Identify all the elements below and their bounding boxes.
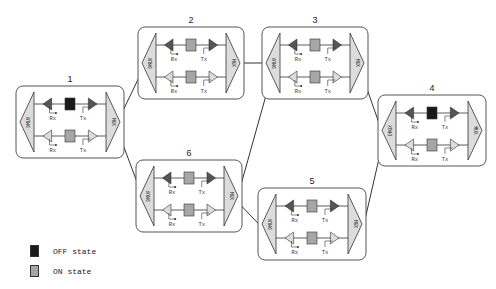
switch-bottom-on <box>427 139 437 151</box>
rx-label: Rx <box>171 88 178 95</box>
rx-port-dot <box>417 153 419 155</box>
rx-port-dot <box>174 186 176 188</box>
node-label: 3 <box>312 15 317 25</box>
legend-item-off: OFF state <box>30 241 96 261</box>
demux-label: DMUX <box>148 57 153 68</box>
demux-label: DMUX <box>146 190 151 201</box>
nodes: 1DMUXMUXRxTxRxTx2DMUXMUXRxTxRxTx3DMUXMUX… <box>16 15 486 260</box>
node-label: 2 <box>188 15 193 25</box>
demux-label: DMUX <box>26 116 31 127</box>
switch-top-off <box>65 98 75 110</box>
tx-label: Tx <box>198 189 205 196</box>
rx-label: Rx <box>295 56 302 63</box>
tx-label: Tx <box>442 156 449 163</box>
rx-port-dot <box>176 53 178 55</box>
switch-bottom-on <box>307 232 317 244</box>
switch-bottom-on <box>65 130 75 142</box>
demux-label: DMUX <box>388 125 393 136</box>
node-5: 5DMUXMUXRxTxRxTx <box>258 176 366 260</box>
switch-top-on <box>310 39 320 51</box>
switch-bottom-on <box>186 71 196 83</box>
rx-port-dot <box>55 112 57 114</box>
switch-top-on <box>184 172 194 184</box>
rx-label: Rx <box>169 189 176 196</box>
rx-label: Rx <box>291 249 298 256</box>
rx-port-dot <box>300 53 302 55</box>
off-state-swatch <box>30 245 39 257</box>
switch-top-on <box>186 39 196 51</box>
node-label: 5 <box>309 176 314 186</box>
node-4: 4DMUXMUXRxTxRxTx <box>378 83 486 166</box>
node-label: 1 <box>67 74 72 84</box>
node-label: 4 <box>429 83 434 93</box>
rx-label: Rx <box>411 124 418 131</box>
tx-label: Tx <box>322 249 329 256</box>
mux-label: MUX <box>229 192 234 200</box>
tx-label: Tx <box>80 147 87 154</box>
node-label: 6 <box>186 148 191 158</box>
tx-label: Tx <box>322 217 329 224</box>
rx-port-dot <box>174 218 176 220</box>
rx-port-dot <box>417 121 419 123</box>
legend-label-off: OFF state <box>53 247 96 256</box>
tx-label: Tx <box>80 115 87 122</box>
rx-label: Rx <box>49 147 56 154</box>
switch-top-on <box>307 200 317 212</box>
demux-label: DMUX <box>268 218 273 229</box>
switch-bottom-on <box>184 204 194 216</box>
tx-label: Tx <box>442 124 449 131</box>
tx-label: Tx <box>200 56 207 63</box>
rx-label: Rx <box>291 217 298 224</box>
rx-port-dot <box>297 214 299 216</box>
rx-port-dot <box>300 85 302 87</box>
legend-label-on: ON state <box>53 267 91 276</box>
rx-port-dot <box>297 246 299 248</box>
on-state-swatch <box>30 265 39 277</box>
legend: OFF state ON state <box>30 241 96 281</box>
node-2: 2DMUXMUXRxTxRxTx <box>138 15 244 99</box>
rx-label: Rx <box>295 88 302 95</box>
rx-port-dot <box>55 144 57 146</box>
mux-label: MUX <box>353 220 358 228</box>
tx-label: Tx <box>200 88 207 95</box>
demux-label: DMUX <box>272 57 277 68</box>
node-6: 6DMUXMUXRxTxRxTx <box>136 148 242 232</box>
switch-top-off <box>427 107 437 119</box>
tx-label: Tx <box>324 56 331 63</box>
rx-label: Rx <box>49 115 56 122</box>
node-3: 3DMUXMUXRxTxRxTx <box>262 15 368 99</box>
mux-label: MUX <box>355 59 360 67</box>
tx-label: Tx <box>198 221 205 228</box>
rx-label: Rx <box>411 156 418 163</box>
mux-label: MUX <box>111 118 116 126</box>
node-1: 1DMUXMUXRxTxRxTx <box>16 74 124 158</box>
rx-label: Rx <box>171 56 178 63</box>
legend-item-on: ON state <box>30 261 96 281</box>
tx-label: Tx <box>324 88 331 95</box>
rx-label: Rx <box>169 221 176 228</box>
switch-bottom-on <box>310 71 320 83</box>
mux-label: MUX <box>231 59 236 67</box>
rx-port-dot <box>176 85 178 87</box>
mux-label: MUX <box>473 126 478 134</box>
